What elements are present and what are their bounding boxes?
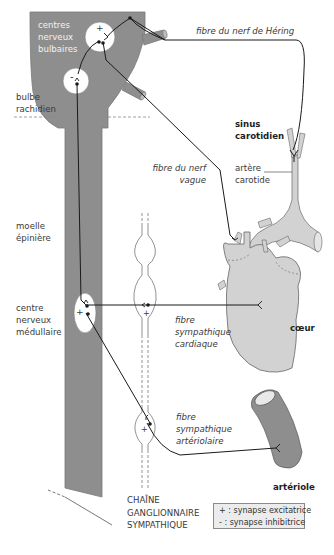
ganglion-cardiac-sign: + bbox=[143, 308, 150, 320]
label-artere-carotide: artère carotide bbox=[235, 162, 270, 186]
sympathetic-ganglion-chain bbox=[134, 213, 156, 490]
label-sinus-carotidien: sinus carotidien bbox=[235, 118, 284, 142]
medullary-sign: + bbox=[76, 306, 84, 318]
label-fibre-hering: fibre du nerf de Héring bbox=[196, 25, 294, 37]
label-moelle-epiniere: moelle épinière bbox=[16, 220, 51, 244]
bulbar-bottom-sign: - bbox=[70, 71, 74, 83]
cut-line bbox=[48, 490, 65, 497]
label-centre-medullaire: centre nerveux médullaire bbox=[16, 302, 62, 338]
label-coeur: cœur bbox=[290, 322, 315, 334]
legend-box: + : synapse excitatrice - : synapse inhi… bbox=[213, 503, 305, 529]
label-chaine-ganglionnaire: CHAÎNE GANGLIONNAIRE SYMPATHIQUE bbox=[127, 494, 199, 532]
legend-excitatory: + : synapse excitatrice bbox=[219, 505, 304, 517]
label-fibre-vague: fibre du nerf vague bbox=[150, 162, 206, 186]
baroreflex-diagram bbox=[0, 0, 334, 555]
legend-inhibitory: - : synapse inhibitrice bbox=[219, 517, 304, 529]
bulbar-inhibitory-nucleus bbox=[63, 68, 89, 94]
label-arteriole: artériole bbox=[273, 481, 315, 493]
label-bulbe-rachidien: bulbe rachidien bbox=[16, 91, 56, 115]
cut-line bbox=[65, 497, 112, 525]
bulbar-top-sign: + bbox=[96, 22, 104, 34]
label-fibre-cardiaque: fibre sympathique cardiaque bbox=[175, 314, 231, 350]
label-fibre-arteriolaire: fibre sympathique artériolaire bbox=[176, 411, 232, 447]
ganglion-arteriolar-sign: + bbox=[141, 424, 148, 436]
heart-shape bbox=[224, 232, 301, 372]
label-centres-bulbaires: centres nerveux bulbaires bbox=[38, 19, 78, 55]
hering-nerve-stub bbox=[142, 30, 166, 45]
